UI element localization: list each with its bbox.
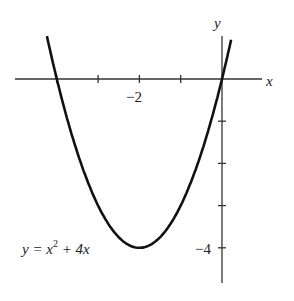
y-tick-label: −4 <box>195 241 211 257</box>
x-tick-label: −2 <box>126 89 142 105</box>
parabola-chart: x y −2 −4 y = x2 + 4x <box>0 0 294 301</box>
parabola-curve <box>47 36 231 248</box>
x-axis-label: x <box>265 73 273 89</box>
y-axis-label: y <box>212 15 221 31</box>
equation-label: y = x2 + 4x <box>20 238 90 257</box>
